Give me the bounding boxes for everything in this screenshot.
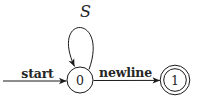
self-loop-label: S xyxy=(80,2,91,21)
self-loop-arrow xyxy=(68,27,93,69)
automaton-canvas: start S newline 0 1 xyxy=(0,0,198,101)
automaton-diagram: start S newline 0 1 xyxy=(0,0,198,101)
state-1-label: 1 xyxy=(171,73,179,88)
start-arrow-label: start xyxy=(21,66,54,81)
state-0-label: 0 xyxy=(76,73,84,88)
newline-arrow-label: newline xyxy=(99,65,152,80)
